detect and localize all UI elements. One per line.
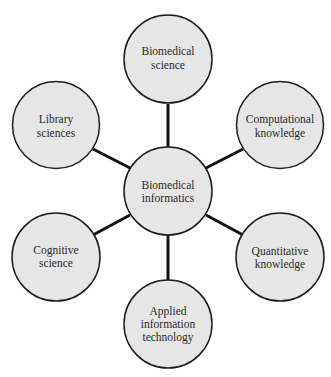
node-label: science <box>39 257 73 269</box>
node-circle <box>13 82 100 169</box>
center-node-circle <box>124 147 212 235</box>
node-label: Computational <box>246 113 314 126</box>
edge-quantitative-knowledge <box>206 215 243 235</box>
node-label: knowledge <box>255 258 305 271</box>
node-label: technology <box>142 331 193 344</box>
node-label: Cognitive <box>33 244 78 257</box>
node-label: knowledge <box>255 127 305 140</box>
edge-library-sciences <box>93 149 130 168</box>
biomedical-informatics-diagram: Biomedical science Computational knowled… <box>0 0 331 377</box>
node-label: Biomedical <box>141 45 194 57</box>
node-label: sciences <box>37 127 76 139</box>
node-biomedical-informatics: Biomedical informatics <box>124 147 212 235</box>
node-computational-knowledge: Computational knowledge <box>237 82 324 169</box>
node-label: information <box>141 318 196 330</box>
node-circle <box>236 213 324 301</box>
edge-cognitive-science <box>93 215 130 235</box>
center-node-label: Biomedical <box>141 179 194 191</box>
node-quantitative-knowledge: Quantitative knowledge <box>236 213 324 301</box>
node-library-sciences: Library sciences <box>13 82 100 169</box>
node-circle <box>237 82 324 169</box>
node-label: Applied <box>149 305 186 318</box>
edge-computational-knowledge <box>206 149 243 168</box>
node-applied-information-technology: Applied information technology <box>124 280 212 368</box>
node-label: Quantitative <box>252 245 309 257</box>
node-biomedical-science: Biomedical science <box>124 15 212 103</box>
node-label: science <box>151 59 185 71</box>
center-node-label: informatics <box>142 192 195 204</box>
node-cognitive-science: Cognitive science <box>12 213 100 301</box>
node-label: Library <box>39 113 74 126</box>
